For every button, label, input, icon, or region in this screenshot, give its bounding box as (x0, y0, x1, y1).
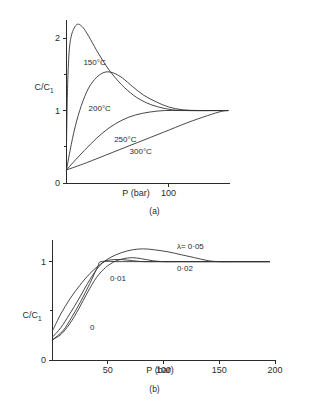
x-tick-label: 50 (103, 365, 113, 375)
y-axis-title: C/C1 (34, 82, 54, 94)
curve-150-c (67, 24, 228, 143)
x-axis-title: P (bar) (122, 188, 149, 198)
x-tick-label: 100 (161, 188, 176, 198)
figure-page: GAS TREATMENT PROCESSES 012100P (bar)C/C… (0, 0, 309, 401)
chart-b: 0150100150200P (bar)C/C1λ= 0·050·020·010 (0, 222, 309, 401)
curve-label: 150°C (83, 58, 106, 67)
x-axis-title: P (bar) (146, 365, 173, 375)
curve-label: 0·01 (110, 274, 127, 283)
curve-300-c (67, 111, 228, 170)
y-axis-title: C/C1 (22, 310, 42, 322)
figure-b-caption: (b) (0, 384, 309, 394)
x-tick-label: 150 (212, 365, 227, 375)
y-tick-label: 1 (41, 257, 46, 267)
curve-0-02 (53, 258, 269, 340)
curve-lambda-0-05 (53, 249, 269, 330)
y-tick-label: 0 (41, 355, 46, 365)
y-tick-label: 2 (55, 33, 60, 43)
chart-a: 012100P (bar)C/C1150°C200°C250°C300°C (0, 8, 309, 208)
y-tick-label: 0 (55, 178, 60, 188)
figure-a-caption: (a) (0, 206, 309, 216)
x-tick-label: 200 (267, 365, 282, 375)
curve-label: 250°C (114, 135, 137, 144)
curve-label: 200°C (89, 104, 112, 113)
figure-b: 0150100150200P (bar)C/C1λ= 0·050·020·010… (0, 222, 309, 401)
curve-label: 300°C (130, 147, 153, 156)
figure-a: 012100P (bar)C/C1150°C200°C250°C300°C (a… (0, 8, 309, 220)
curve-label: 0·02 (177, 264, 194, 273)
curve-0 (53, 261, 269, 339)
curve-0-01 (53, 259, 269, 336)
curve-label: λ= 0·05 (177, 242, 204, 251)
curve-label: 0 (90, 323, 95, 332)
y-tick-label: 1 (55, 106, 60, 116)
